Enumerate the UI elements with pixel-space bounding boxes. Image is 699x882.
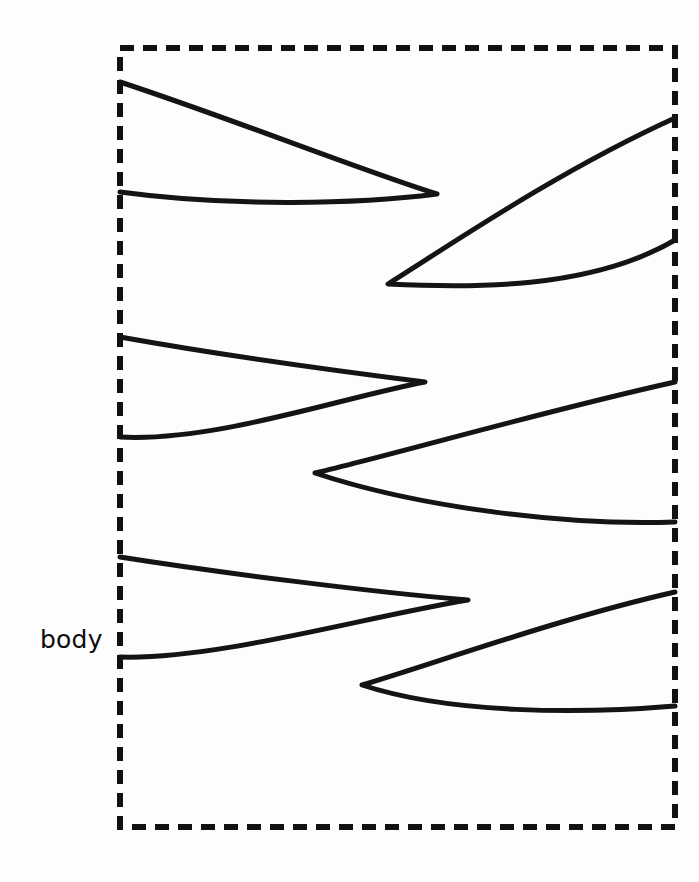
fin-left-2 [120, 337, 425, 437]
fin-right-1 [388, 118, 675, 286]
diagram-canvas: body [0, 0, 699, 882]
fin-left-1 [120, 82, 437, 202]
diagram-svg: body [0, 0, 699, 882]
fin-left-3 [120, 557, 468, 657]
body-label: body [40, 625, 103, 654]
fin-right-2 [315, 382, 675, 523]
